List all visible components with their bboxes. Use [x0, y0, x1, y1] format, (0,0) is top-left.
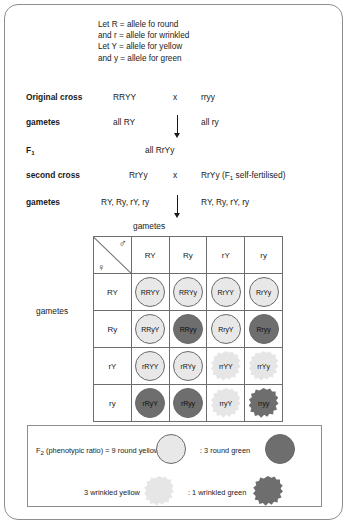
phenotype-legend: F2 (phenotypic ratio) = 9 round yellow :…	[27, 425, 322, 507]
punnett-row-1: Ry RRyY RRyy RryY Rryy	[94, 311, 283, 348]
seed-wrinkled-dark: rryy	[249, 388, 279, 418]
punnett-cell-2-0: rRYY	[131, 348, 169, 385]
punnett-cell-3-2: rryY	[207, 385, 245, 422]
seed-round-light: RRyY	[135, 314, 165, 344]
seed-wrinkled-light: rrYY	[211, 351, 241, 381]
gametes-label-1: gametes	[26, 117, 60, 127]
punnett-col-header-1: Ry	[169, 237, 207, 274]
punnett-cell-0-1: RRYy	[169, 274, 207, 311]
arrow-head-1	[174, 133, 180, 138]
female-symbol-icon: ♀	[97, 261, 105, 273]
punnett-col-header-0: RY	[131, 237, 169, 274]
f2-subscript: 2	[41, 449, 44, 456]
arrow-head-2	[174, 213, 180, 218]
gametes-2-right: RY, Ry, rY, ry	[201, 197, 249, 207]
punnett-row-header-0: RY	[94, 274, 132, 311]
seed-round-light: rRYy	[173, 351, 203, 381]
punnett-cell-1-1: RRyy	[169, 311, 207, 348]
punnett-cell-3-0: rRyY	[131, 385, 169, 422]
allele-key-line-4: and y = allele for green	[98, 53, 189, 64]
seed-round-light: RrYy	[249, 277, 279, 307]
seed-round-light: RryY	[211, 314, 241, 344]
f1-subscript: 1	[31, 149, 34, 156]
legend-ratio-text: F2 (phenotypic ratio) = 9 round yellow	[36, 446, 159, 455]
punnett-square: ♂ ♀ RY Ry rY ry RY RRYY RRYy RrYY RrYy R…	[93, 236, 283, 422]
grid-top-gametes-label: gametes	[133, 221, 165, 231]
punnett-cell-1-0: RRyY	[131, 311, 169, 348]
seed-wrinkled-light: rryY	[211, 388, 241, 418]
original-cross-label: Original cross	[26, 92, 82, 102]
punnett-row-header-1: Ry	[94, 311, 132, 348]
original-cross-parent1: RRYY	[113, 92, 136, 102]
male-symbol-icon: ♂	[119, 238, 127, 249]
second-cross-label: second cross	[26, 170, 80, 180]
seed-round-dark: rRyY	[135, 388, 165, 418]
original-cross-symbol: x	[173, 92, 177, 102]
legend-wrinkled-green-text: : 1 wrinkled green	[188, 488, 246, 497]
allele-key: Let R = allele fo round and r = allele f…	[98, 19, 189, 64]
f1-value: all RrYy	[145, 145, 174, 155]
legend-swatch-round-green	[265, 434, 295, 464]
seed-round-light: RrYY	[211, 277, 241, 307]
punnett-row-header-2: rY	[94, 348, 132, 385]
second-cross-f1-subscript: 1	[230, 174, 233, 181]
punnett-cell-2-3: rrYy	[245, 348, 283, 385]
punnett-header-row: ♂ ♀ RY Ry rY ry	[94, 237, 283, 274]
punnett-corner-cell: ♂ ♀	[94, 237, 132, 274]
punnett-cell-3-1: rRyy	[169, 385, 207, 422]
gametes-label-2: gametes	[26, 197, 60, 207]
seed-round-light: RRYY	[135, 277, 165, 307]
seed-round-dark: rRyy	[173, 388, 203, 418]
punnett-cell-1-3: Rryy	[245, 311, 283, 348]
second-cross-parent2: RrYy (F1 self-fertilised)	[201, 170, 285, 180]
punnett-cell-1-2: RryY	[207, 311, 245, 348]
punnett-row-3: ry rRyY rRyy rryY rryy	[94, 385, 283, 422]
allele-key-line-1: Let R = allele fo round	[98, 19, 189, 30]
punnett-col-header-2: rY	[207, 237, 245, 274]
genetics-dihybrid-cross-figure: Let R = allele fo round and r = allele f…	[4, 4, 343, 520]
punnett-col-header-3: ry	[245, 237, 283, 274]
f1-label: F1	[26, 145, 35, 155]
punnett-cell-2-1: rRYy	[169, 348, 207, 385]
punnett-cell-3-3: rryy	[245, 385, 283, 422]
punnett-row-2: rY rRYY rRYy rrYY rrYy	[94, 348, 283, 385]
allele-key-line-3: Let Y = allele for yellow	[98, 41, 189, 52]
gametes-2-left: RY, Ry, rY, ry	[101, 197, 149, 207]
seed-round-dark: RRyy	[173, 314, 203, 344]
second-cross-symbol: x	[173, 170, 177, 180]
legend-wrinkled-yellow-text: 3 wrinkled yellow	[84, 488, 140, 497]
gametes-1-left: all RY	[113, 117, 135, 127]
legend-swatch-wrinkled-yellow	[144, 476, 174, 506]
legend-swatch-wrinkled-green	[253, 476, 283, 506]
original-cross-parent2: rryy	[201, 92, 215, 102]
punnett-cell-2-2: rrYY	[207, 348, 245, 385]
punnett-cell-0-0: RRYY	[131, 274, 169, 311]
punnett-cell-0-2: RrYY	[207, 274, 245, 311]
seed-round-light: RRYy	[173, 277, 203, 307]
punnett-cell-0-3: RrYy	[245, 274, 283, 311]
seed-wrinkled-light: rrYy	[249, 351, 279, 381]
second-cross-parent1: RrYy	[129, 170, 148, 180]
seed-round-dark: Rryy	[249, 314, 279, 344]
legend-round-green-text: : 3 round green	[200, 446, 250, 455]
gametes-1-right: all ry	[201, 117, 219, 127]
allele-key-line-2: and r = allele for wrinkled	[98, 30, 189, 41]
seed-round-light: rRYY	[135, 351, 165, 381]
grid-left-gametes-label: gametes	[36, 306, 68, 316]
legend-swatch-round-yellow	[156, 434, 186, 464]
punnett-row-0: RY RRYY RRYy RrYY RrYy	[94, 274, 283, 311]
punnett-row-header-3: ry	[94, 385, 132, 422]
